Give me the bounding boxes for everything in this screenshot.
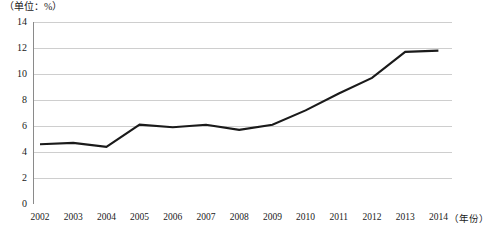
axis-lines xyxy=(33,22,34,204)
y-tick-label: 2 xyxy=(3,173,27,183)
gridlines xyxy=(33,23,452,205)
y-tick-label: 8 xyxy=(3,95,27,105)
y-tick-label: 10 xyxy=(3,69,27,79)
y-tick-label: 4 xyxy=(3,147,27,157)
data-series-line xyxy=(40,51,438,147)
line-chart: （单位：%） 02468101214 200220032004200520062… xyxy=(0,0,485,241)
y-tick-label: 12 xyxy=(3,43,27,53)
plot-area xyxy=(33,22,452,204)
y-tick-label: 6 xyxy=(3,121,27,131)
y-tick-label: 14 xyxy=(3,17,27,27)
chart-unit-label: （单位：%） xyxy=(4,1,62,13)
chart-canvas xyxy=(33,22,452,204)
x-axis-title: （年份） xyxy=(449,214,485,224)
y-tick-label: 0 xyxy=(3,199,27,209)
